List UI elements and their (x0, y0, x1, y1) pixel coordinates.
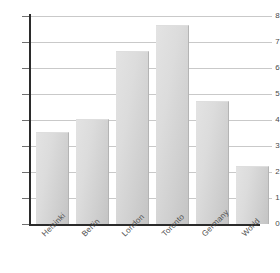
bar[interactable] (36, 132, 69, 224)
bar[interactable] (196, 101, 229, 224)
plot-area (30, 10, 272, 226)
bar[interactable] (156, 25, 189, 224)
bar[interactable] (116, 51, 149, 224)
bar[interactable] (76, 119, 109, 224)
bar[interactable] (236, 166, 269, 224)
x-axis-spine (29, 224, 260, 226)
bar-chart: 012345678 HelsinkiBerlinLondonTorontoGer… (0, 0, 280, 273)
